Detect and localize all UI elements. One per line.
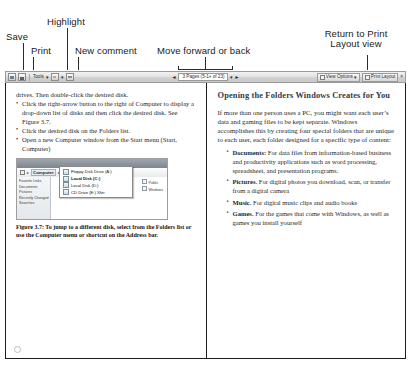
next-page-arrow-icon[interactable]: ► <box>234 75 241 80</box>
list-item: Click the right-arrow button to the righ… <box>16 100 196 126</box>
embedded-figure-screenshot: ▸ Computer ▸ Local Disk (C:) ▸ Favorite … <box>16 158 168 220</box>
callout-label-highlight: Highlight <box>47 16 85 27</box>
figure-caption: Figure 3.7: To jump to a different disk,… <box>16 224 196 240</box>
dropdown-item-cd-drive[interactable]: CD Drive (E:) Xfer <box>60 189 132 196</box>
printer-icon[interactable] <box>18 73 26 81</box>
print-layout-button[interactable]: Print Layout <box>362 73 399 82</box>
callout-leader-return-print-layout <box>367 55 368 70</box>
dropdown-item-label: Local Disk (C:) <box>71 176 100 181</box>
print-layout-label: Print Layout <box>371 75 396 80</box>
list-item-text: For digital photos you download, scan, o… <box>233 178 391 194</box>
close-icon[interactable]: × <box>400 75 403 80</box>
callout-leader-save <box>23 43 24 70</box>
tree-item-label: Public <box>148 181 158 185</box>
list-item-term: Games. <box>233 210 254 217</box>
list-item: Click the desired disk on the Folders li… <box>16 127 196 136</box>
page-chevron-down-icon[interactable]: ▾ <box>230 75 233 80</box>
breadcrumb-computer: Computer <box>31 169 56 176</box>
callout-label-return-print-layout: Return to Print Layout view <box>311 29 401 50</box>
callout-label-print: Print <box>31 45 51 56</box>
new-comment-icon[interactable] <box>66 73 74 81</box>
callout-label-save: Save <box>6 31 28 42</box>
tree-item: Windows <box>142 186 163 193</box>
list-item-text: For digital music clips and audio books <box>251 199 357 206</box>
cd-drive-icon <box>63 189 69 195</box>
callout-leader-new-comment <box>78 57 79 70</box>
callout-leader-print <box>33 57 34 70</box>
save-disk-icon[interactable] <box>8 73 16 81</box>
left-column: drives. Then double-click the desired di… <box>6 83 206 358</box>
callout-label-new-comment: New comment <box>75 45 137 56</box>
left-intro-line: drives. Then double-click the desired di… <box>16 91 196 100</box>
right-column: Opening the Folders Windows Creates for … <box>206 83 406 358</box>
callout-leader-highlight <box>67 28 68 70</box>
hard-disk-icon <box>63 176 69 182</box>
view-options-icon <box>320 75 325 80</box>
view-options-button[interactable]: View Options ▾ <box>317 73 360 82</box>
list-item-term: Documents: <box>233 149 267 156</box>
tools-chevron-down-icon[interactable]: ▾ <box>46 75 49 80</box>
dropdown-item-local-c[interactable]: Local Disk (C:) <box>60 175 132 182</box>
view-options-chevron-down-icon: ▾ <box>354 75 357 80</box>
hard-disk-icon-2 <box>63 182 69 188</box>
dropdown-item-local-d[interactable]: Local Disk (D:) <box>60 182 132 189</box>
floppy-disk-icon <box>63 169 69 175</box>
callout-leader-move-forward-back <box>205 57 206 69</box>
toolbar-right-group: View Options ▾ Print Layout × <box>317 73 403 82</box>
folder-icon <box>20 170 25 175</box>
reading-view-toolbar[interactable]: Tools ▾ ▾ ◄ 3 Pages (5-1+ of 23) ▾ ► Vie… <box>5 71 406 83</box>
tools-menu-label[interactable]: Tools <box>33 75 44 80</box>
list-item-term: Music. <box>233 199 252 206</box>
previous-page-arrow-icon[interactable]: ◄ <box>171 75 178 80</box>
callout-label-move-forward-back: Move forward or back <box>157 45 250 56</box>
step-list: Click the right-arrow button to the righ… <box>16 100 196 153</box>
page-indicator[interactable]: 3 Pages (5-1+ of 23) <box>178 73 228 81</box>
document-page: drives. Then double-click the desired di… <box>5 83 406 359</box>
list-item: Open a new Computer window from the Star… <box>16 136 196 153</box>
figure-navigation-pane: Favorite Links Documents Pictures Recent… <box>17 177 51 219</box>
checkbox-icon-2 <box>142 186 147 191</box>
highlight-chevron-down-icon[interactable]: ▾ <box>61 75 64 80</box>
callout-bracket-left-tick <box>178 66 179 70</box>
figure-folder-tree: Public Windows <box>142 179 163 193</box>
dropdown-item-floppy[interactable]: Floppy Disk Drive (A:) <box>60 168 132 175</box>
callout-bracket-right-tick <box>232 66 233 70</box>
dropdown-item-label: Floppy Disk Drive (A:) <box>71 169 112 174</box>
dropdown-item-label: Local Disk (D:) <box>71 183 98 188</box>
highlighter-icon[interactable] <box>51 73 59 81</box>
toolbar-separator <box>29 74 30 81</box>
tree-item: Public <box>142 179 163 186</box>
nav-item: Searches <box>19 201 49 206</box>
list-item-term: Pictures. <box>233 178 258 185</box>
tree-item-label: Windows <box>148 188 163 192</box>
content-type-list: Documents: For data files from informati… <box>218 149 396 227</box>
toolbar-page-navigation: ◄ 3 Pages (5-1+ of 23) ▾ ► <box>171 73 241 81</box>
list-item: Games. For the games that come with Wind… <box>227 210 396 228</box>
list-item-text: For the games that come with Windows, as… <box>233 210 389 226</box>
section-heading: Opening the Folders Windows Creates for … <box>218 91 396 102</box>
list-item: Documents: For data files from informati… <box>227 149 396 175</box>
page-corner-mark <box>14 346 21 353</box>
toolbar-left-group: Tools ▾ ▾ <box>6 73 74 81</box>
callout-bracket-move-forward-back <box>178 69 233 70</box>
section-paragraph: If more than one person uses a PC, you m… <box>218 108 396 145</box>
print-layout-icon <box>365 75 370 80</box>
checkbox-icon <box>142 179 147 184</box>
dropdown-item-label: CD Drive (E:) Xfer <box>71 190 105 195</box>
list-item: Music. For digital music clips and audio… <box>227 199 396 208</box>
view-options-label: View Options <box>326 75 353 80</box>
address-chevron-icon: ▸ <box>27 170 29 175</box>
list-item: Pictures. For digital photos you downloa… <box>227 178 396 196</box>
disk-dropdown-menu[interactable]: Floppy Disk Drive (A:) Local Disk (C:) L… <box>59 166 133 197</box>
page-indicator-label: 3 Pages (5-1+ of 23) <box>182 75 224 80</box>
